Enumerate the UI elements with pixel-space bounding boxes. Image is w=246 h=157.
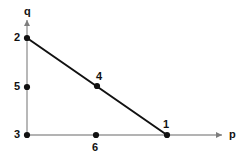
point-marker-2 — [24, 35, 30, 41]
point-label-3: 3 — [14, 129, 20, 140]
point-marker-3 — [24, 132, 30, 138]
point-marker-6 — [93, 132, 99, 138]
point-marker-5 — [24, 84, 30, 90]
point-label-2: 2 — [14, 32, 20, 43]
point-label-4: 4 — [96, 71, 102, 82]
point-label-5: 5 — [14, 81, 20, 92]
point-label-6: 6 — [92, 142, 98, 153]
p-axis-label: p — [229, 129, 236, 140]
point-marker-4 — [94, 83, 100, 89]
q-axis-label: q — [24, 6, 31, 17]
point-marker-1 — [164, 132, 170, 138]
geometry-figure: q p 2 5 3 4 1 6 — [0, 0, 246, 157]
figure-canvas — [0, 0, 246, 157]
point-label-1: 1 — [163, 119, 169, 130]
